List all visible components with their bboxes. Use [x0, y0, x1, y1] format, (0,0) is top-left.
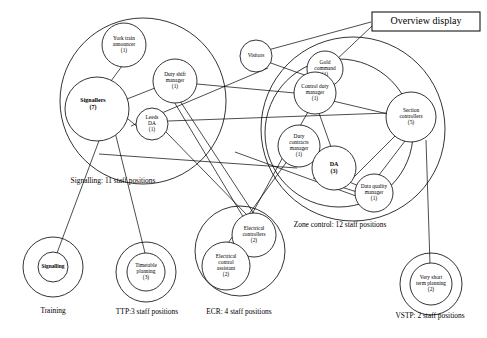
section-controllers-label-line: Section	[403, 107, 419, 113]
section-controllers-label-line: controllers	[399, 113, 422, 119]
duty-contracts-manager-label-line: contracts	[289, 139, 308, 145]
link-section-dataquality	[379, 141, 405, 175]
zone-control-caption: Zone control: 12 staff positions	[294, 220, 387, 229]
data-quality-manager-label-line: manager	[365, 189, 384, 195]
electrical-controllers-label-line: controllers	[242, 231, 265, 237]
node-duty-shift-manager[interactable]: Duty shiftmanager(1)	[153, 59, 197, 103]
node-section-controllers[interactable]: Sectioncontrollers(5)	[386, 92, 436, 142]
vstp-caption: VSTP: 2 staff positions	[395, 311, 464, 320]
signallers-label-line: (7)	[90, 104, 97, 111]
node-signalling-training[interactable]: Signalling	[38, 252, 68, 282]
link-visitors-control-duty	[268, 62, 310, 77]
york-train-announcer-label-line: announcer	[113, 41, 136, 47]
data-quality-manager-label-line: Data quality	[361, 183, 388, 189]
signallers-circle[interactable]	[65, 77, 129, 141]
link-leeds-ecr	[166, 132, 248, 216]
node-visitors[interactable]: Visitors	[240, 40, 272, 72]
duty-shift-manager-label-line: (1)	[172, 83, 178, 90]
york-train-announcer-label-line: York train	[113, 35, 135, 41]
node-york-train-announcer[interactable]: York trainannouncer(1)	[102, 23, 146, 67]
link-signallers-training	[54, 122, 106, 261]
signalling-training-label-line: Signalling	[41, 263, 64, 269]
link-signallers-ttp	[112, 120, 146, 257]
ecr-caption: ECR: 4 staff positions	[206, 307, 271, 316]
control-duty-manager-label-line: manager	[306, 89, 325, 95]
leeds-da-label-line: Leeds	[146, 114, 159, 120]
signallers-label-line: Signallers	[80, 97, 106, 103]
electrical-controllers-label-line: Electrical	[244, 225, 265, 231]
link-control-duty-section	[333, 101, 388, 114]
very-short-term-planning-label-line: Very short	[420, 274, 443, 280]
box-layer: Overview display	[372, 12, 480, 31]
york-train-announcer-label-line: (1)	[121, 47, 127, 54]
control-duty-manager-label-line: (1)	[312, 95, 318, 102]
control-duty-manager-label-line: Control duty	[301, 83, 329, 89]
da-label-line: (3)	[331, 168, 338, 175]
electrical-control-assistant-label-line: control	[218, 259, 234, 265]
training-caption: Training	[40, 306, 65, 315]
timetable-planning-label-line: Timetable	[135, 262, 157, 268]
very-short-term-planning-label-line: (2)	[428, 286, 434, 293]
link-crosslong-3	[99, 154, 297, 168]
data-quality-manager-label-line: (1)	[371, 195, 377, 202]
overview-display[interactable]: Overview display	[372, 12, 480, 31]
duty-contracts-manager-label-line: manager	[290, 145, 309, 151]
signalling-caption: Signalling: 11 staff positions	[71, 176, 156, 185]
timetable-planning-label-line: (3)	[143, 274, 149, 281]
link-visitors-overview	[268, 22, 371, 50]
duty-contracts-manager-label-line: (1)	[296, 151, 302, 158]
node-very-short-term-planning[interactable]: Very shortterm planning(2)	[410, 263, 452, 305]
link-leeds-section	[168, 113, 388, 121]
node-signallers[interactable]: Signallers(7)	[65, 77, 129, 141]
link-control-duty-da	[319, 113, 331, 147]
link-section-vstp	[426, 140, 430, 264]
node-timetable-planning[interactable]: Timetableplanning(3)	[127, 253, 165, 291]
very-short-term-planning-label-line: term planning	[416, 280, 446, 286]
leeds-da-label-line: (1)	[149, 126, 155, 133]
electrical-control-assistant-label-line: Electrical	[216, 253, 237, 259]
duty-contracts-manager-label-line: Duty	[294, 133, 305, 139]
visitors-label-line: Visitors	[248, 52, 265, 58]
organisation-circle-diagram: York trainannouncer(1)Signallers(7)Duty …	[0, 0, 487, 338]
diagram-canvas: York trainannouncer(1)Signallers(7)Duty …	[0, 0, 487, 338]
link-gold-overview	[334, 26, 372, 62]
link-control-duty-contracts	[300, 112, 308, 126]
node-control-duty-manager[interactable]: Control dutymanager(1)	[294, 72, 336, 114]
timetable-planning-label-line: planning	[137, 268, 156, 274]
node-data-quality-manager[interactable]: Data qualitymanager(1)	[355, 174, 393, 212]
electrical-control-assistant-label-line: assistant	[217, 265, 236, 271]
ttp-caption: TTP:3 staff positions	[116, 307, 178, 316]
node-electrical-control-assistant[interactable]: Electricalcontrolassistant(2)	[202, 242, 250, 290]
node-da[interactable]: DA(3)	[312, 146, 356, 190]
overview-display-label: Overview display	[391, 15, 462, 26]
electrical-control-assistant-label-line: (2)	[223, 271, 229, 278]
section-controllers-label-line: (5)	[408, 119, 414, 126]
gold-command-label-line: command	[314, 65, 336, 71]
electrical-controllers-label-line: (2)	[251, 237, 257, 244]
node-leeds-da[interactable]: LeedsDA(1)	[136, 108, 168, 140]
leeds-da-label-line: DA	[148, 120, 156, 126]
duty-shift-manager-label-line: Duty shift	[164, 71, 186, 77]
duty-shift-manager-label-line: manager	[166, 77, 185, 83]
da-label-line: DA	[330, 161, 339, 167]
gold-command-label-line: Gold	[320, 59, 331, 65]
